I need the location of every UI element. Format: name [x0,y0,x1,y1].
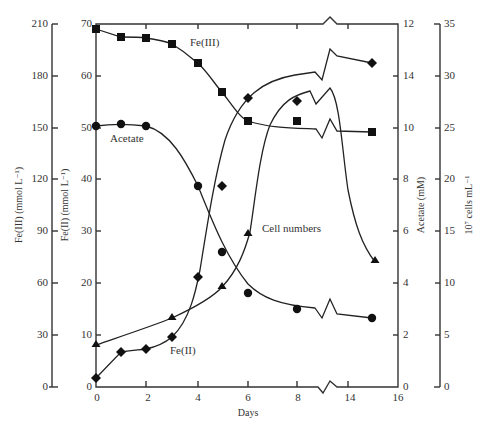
cells-tick: 10 [444,276,456,288]
cells-axis-title: 10⁷ cells mL⁻¹ [463,176,474,235]
acetate-tick: 4 [403,276,409,288]
x-tick: 14 [345,391,357,403]
acetate-markers [92,120,376,322]
fe3-tick: 0 [43,380,49,392]
fe2-tick: 20 [81,276,93,288]
fe3-tick: 60 [37,276,49,288]
cells-tick: 25 [444,121,456,133]
cells-tick: 20 [444,172,456,184]
fe2-tick: 70 [81,17,93,29]
fe2-curve [96,49,372,378]
acetate-ticks: 0 2 4 6 8 10 14 12 [393,17,415,392]
fe3-tick: 180 [32,69,49,81]
fe3-tick: 30 [37,328,49,340]
fe2-axis-title: Fe(II) (mmol L⁻¹) [59,169,71,242]
fe2-tick: 0 [87,380,93,392]
x-tick: 16 [393,391,405,403]
acetate-tick: 8 [403,172,409,184]
acetate-axis-title: Acetate (mM) [415,177,427,233]
cells-markers [92,229,380,347]
cells-tick: 0 [444,380,450,392]
cells-tick: 5 [444,328,450,340]
cells-tick: 35 [444,17,456,29]
fe3-tick: 120 [32,172,49,184]
acetate-curve-label: Acetate [110,132,144,144]
acetate-tick: 12 [403,17,414,29]
fe2-tick: 40 [81,172,93,184]
fe3-tick: 90 [37,224,49,236]
fe2-tick: 10 [81,328,93,340]
acetate-tick: 2 [403,328,409,340]
x-tick: 4 [195,391,201,403]
fe3-curve-label: Fe(III) [190,36,220,49]
plot-frame [96,17,398,393]
fe2-curve-label: Fe(II) [170,344,196,357]
acetate-tick: 10 [403,121,415,133]
x-tick: 2 [145,391,151,403]
cells-tick: 15 [444,224,456,236]
x-tick: 8 [295,391,301,403]
fe2-tick: 60 [81,69,93,81]
fe2-tick: 50 [81,121,93,133]
cells-curve-label: Cell numbers [262,222,321,234]
fe3-tick: 150 [32,121,49,133]
fe2-markers [91,58,377,383]
fe3-ticks: 0 30 60 90 120 150 180 210 [32,17,59,392]
acetate-tick: 6 [403,224,409,236]
x-axis-title: Days [238,407,259,418]
fe2-tick: 30 [81,224,93,236]
x-tick: 0 [94,391,100,403]
cells-tick: 30 [444,69,456,81]
acetate-tick: 0 [403,380,409,392]
cells-ticks: 0 5 10 15 20 25 30 35 [434,17,456,392]
acetate-tick: 14 [403,69,415,81]
fe2-ticks: 0 10 20 30 40 50 60 70 [81,17,101,392]
fe3-curve [96,29,372,138]
x-tick: 6 [245,391,251,403]
acetate-curve [96,125,372,319]
fe3-tick: 210 [32,17,49,29]
chart: 0 30 60 90 120 150 180 210 Fe(III) (mmol… [0,0,489,436]
fe3-axis-title: Fe(III) (mmol L⁻¹) [13,167,25,243]
x-ticks: 0 2 4 6 8 14 16 [94,24,404,403]
